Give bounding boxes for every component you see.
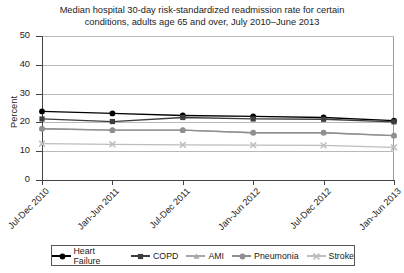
- legend-marker-square-icon: [137, 253, 144, 260]
- legend-item[interactable]: AMI: [186, 251, 224, 261]
- y-axis-tick-label: 50: [2, 30, 30, 40]
- chart-legend: Heart FailureCOPDAMIPneumoniaStroke: [51, 245, 355, 266]
- y-axis-tick-label: 20: [2, 116, 30, 126]
- y-axis-tick: [36, 151, 42, 152]
- y-axis-tick-label: 10: [2, 145, 30, 155]
- legend-marker-triangle-icon: [193, 253, 200, 260]
- y-axis-tick: [36, 65, 42, 66]
- data-point: [251, 116, 256, 121]
- data-point: [391, 133, 397, 139]
- legend-swatch: [307, 251, 326, 260]
- data-point: [39, 126, 45, 132]
- y-axis-tick: [36, 122, 42, 123]
- legend-item[interactable]: Pneumonia: [232, 251, 299, 261]
- legend-label: COPD: [153, 251, 178, 261]
- legend-marker-x-icon: [313, 253, 320, 260]
- x-axis-tick: [42, 180, 43, 185]
- data-point: [180, 115, 185, 120]
- legend-label: Stroke: [329, 251, 354, 261]
- legend-marker-circle-icon: [239, 253, 246, 260]
- x-axis-tick: [324, 180, 325, 185]
- data-point: [321, 117, 326, 122]
- x-axis-tick: [112, 180, 113, 185]
- series-layer: [0, 0, 404, 273]
- legend-label: Pneumonia: [254, 251, 299, 261]
- data-point: [391, 119, 396, 124]
- data-point: [39, 116, 44, 121]
- data-point: [193, 253, 199, 258]
- legend-label: Heart Failure: [73, 246, 123, 266]
- data-point: [138, 253, 143, 258]
- data-point: [250, 130, 256, 136]
- legend-label: AMI: [208, 251, 224, 261]
- series-line: [42, 144, 394, 148]
- data-point: [39, 109, 45, 115]
- y-axis-tick-label: 30: [2, 88, 30, 98]
- legend-swatch: [232, 251, 251, 260]
- data-point: [314, 253, 320, 259]
- data-point: [239, 253, 245, 259]
- legend-marker-circle-icon: [59, 253, 66, 260]
- x-axis-tick: [183, 180, 184, 185]
- chart-figure: Median hospital 30-day risk-standardized…: [0, 0, 404, 273]
- legend-swatch: [186, 251, 205, 260]
- data-point: [110, 119, 115, 124]
- data-point: [110, 111, 116, 117]
- legend-item[interactable]: COPD: [131, 251, 178, 261]
- legend-swatch: [52, 251, 70, 260]
- series-pneumonia: [39, 126, 397, 139]
- series-stroke: [39, 141, 397, 151]
- series-line: [42, 129, 394, 136]
- y-axis-tick: [36, 94, 42, 95]
- x-axis-tick: [253, 180, 254, 185]
- data-point: [321, 130, 327, 136]
- legend-swatch: [131, 251, 150, 260]
- y-axis-tick-label: 0: [2, 174, 30, 184]
- data-point: [110, 127, 116, 133]
- x-axis-tick: [394, 180, 395, 185]
- y-axis-tick: [36, 36, 42, 37]
- data-point: [59, 253, 65, 259]
- y-axis-tick-label: 40: [2, 59, 30, 69]
- legend-item[interactable]: Stroke: [307, 251, 354, 261]
- legend-item[interactable]: Heart Failure: [52, 246, 123, 266]
- data-point: [180, 127, 186, 133]
